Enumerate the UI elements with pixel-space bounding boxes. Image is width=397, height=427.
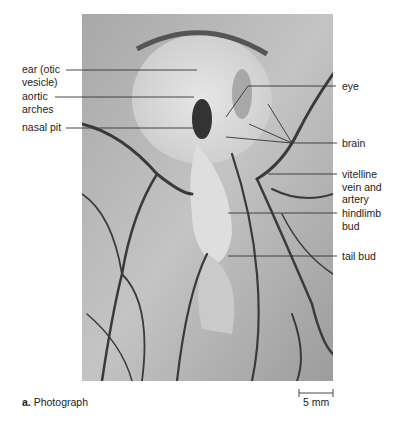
label-vitelline-line3: artery bbox=[342, 193, 382, 206]
label-eye-line1: eye bbox=[342, 80, 359, 93]
label-vitelline: vitelline vein and artery bbox=[342, 168, 382, 206]
label-hindlimb-bud: hindlimb bud bbox=[342, 207, 381, 232]
label-vitelline-line2: vein and bbox=[342, 181, 382, 194]
label-aortic-arches: aortic arches bbox=[22, 90, 54, 115]
panel-letter: a. bbox=[22, 396, 31, 408]
label-hindlimb-line1: hindlimb bbox=[342, 207, 381, 220]
label-nasal-line1: nasal pit bbox=[22, 121, 61, 134]
label-brain-line1: brain bbox=[342, 137, 365, 150]
label-ear-line2: vesicle) bbox=[22, 76, 60, 89]
label-brain: brain bbox=[342, 137, 365, 150]
label-ear: ear (otic vesicle) bbox=[22, 63, 60, 88]
photo-rendering bbox=[82, 14, 333, 381]
embryo-photograph bbox=[82, 14, 333, 381]
label-aortic-line1: aortic bbox=[22, 90, 54, 103]
label-vitelline-line1: vitelline bbox=[342, 168, 382, 181]
label-ear-line1: ear (otic bbox=[22, 63, 60, 76]
panel-title: Photograph bbox=[34, 396, 88, 408]
label-nasal-pit: nasal pit bbox=[22, 121, 61, 134]
label-eye: eye bbox=[342, 80, 359, 93]
label-aortic-line2: arches bbox=[22, 103, 54, 116]
scale-bar-label: 5 mm bbox=[303, 396, 329, 408]
figure-caption: a. Photograph bbox=[22, 396, 88, 408]
label-tail-line1: tail bud bbox=[342, 250, 376, 263]
label-hindlimb-line2: bud bbox=[342, 220, 381, 233]
label-tail-bud: tail bud bbox=[342, 250, 376, 263]
